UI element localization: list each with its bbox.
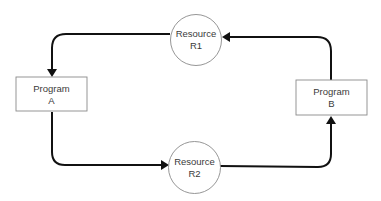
node-program-a: Program A [16, 77, 87, 111]
node-program-b: Program B [296, 80, 367, 115]
arrowhead-icon [326, 116, 336, 124]
edge-program-a-to-r2 [52, 112, 169, 170]
node-label: Program [313, 86, 350, 97]
edge-program-b-to-r1 [222, 32, 331, 80]
node-label: R1 [190, 40, 202, 51]
arrowhead-icon [222, 32, 230, 42]
diagram-canvas: Program A Program B Resource R1 Resource… [0, 0, 381, 201]
node-resource-r2: Resource R2 [169, 142, 221, 194]
node-label: A [48, 95, 55, 106]
node-label: B [328, 98, 334, 109]
edge-r2-to-program-b [220, 116, 336, 167]
node-label: R2 [188, 168, 200, 179]
node-label: Resource [174, 156, 215, 167]
edge-r1-to-program-a [47, 34, 170, 77]
node-label: Resource [176, 28, 217, 39]
node-label: Program [33, 83, 70, 94]
node-resource-r1: Resource R1 [171, 15, 222, 66]
deadlock-diagram: Program A Program B Resource R1 Resource… [0, 0, 381, 201]
arrowhead-icon [47, 69, 57, 77]
arrowhead-icon [161, 160, 169, 170]
